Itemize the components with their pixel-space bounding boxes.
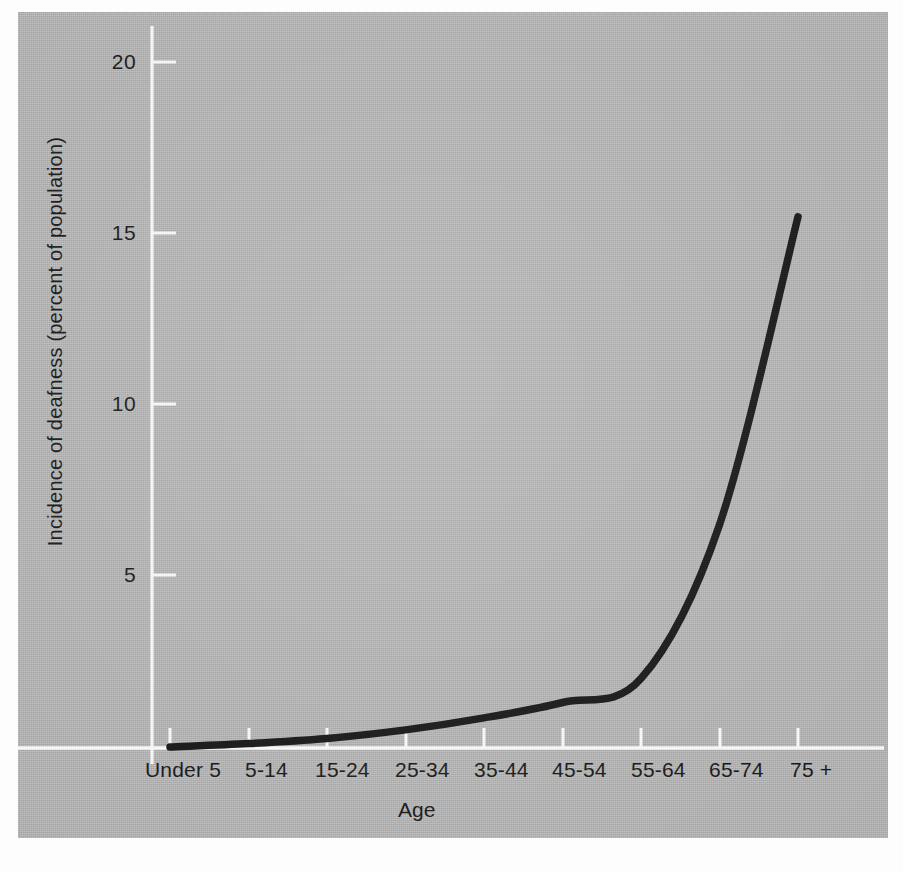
chart-figure: 20 15 10 5 Incidence of deafness (percen…	[18, 12, 888, 838]
y-axis-ticks	[152, 62, 176, 575]
y-tick-label-15: 15	[92, 221, 136, 245]
y-tick-label-10: 10	[92, 392, 136, 416]
deafness-incidence-curve	[170, 217, 798, 747]
x-tick-label-under-5: Under 5	[145, 758, 221, 782]
x-tick-label-75-plus: 75 +	[790, 758, 832, 782]
x-tick-label-15-24: 15-24	[315, 758, 370, 782]
x-axis-title: Age	[398, 798, 435, 822]
x-tick-label-45-54: 45-54	[552, 758, 607, 782]
x-tick-label-35-44: 35-44	[474, 758, 529, 782]
y-tick-label-5: 5	[92, 563, 136, 587]
x-tick-label-5-14: 5-14	[245, 758, 288, 782]
y-tick-label-20: 20	[92, 50, 136, 74]
plot-area: 20 15 10 5 Incidence of deafness (percen…	[18, 12, 888, 838]
x-tick-label-55-64: 55-64	[631, 758, 686, 782]
figure-page: 20 15 10 5 Incidence of deafness (percen…	[0, 0, 903, 872]
x-tick-label-25-34: 25-34	[395, 758, 450, 782]
y-axis-title: Incidence of deafness (percent of popula…	[44, 107, 67, 577]
x-tick-label-65-74: 65-74	[709, 758, 764, 782]
chart-svg	[18, 12, 888, 838]
